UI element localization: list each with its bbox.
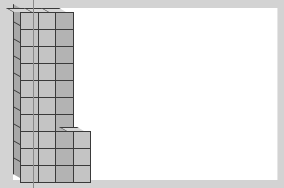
cube — [38, 46, 57, 64]
cube — [20, 114, 39, 132]
cube — [73, 165, 92, 183]
cube — [38, 29, 57, 47]
cube — [38, 80, 57, 98]
cube — [20, 148, 39, 166]
cube — [38, 114, 57, 132]
cube — [55, 29, 74, 47]
cube — [55, 148, 74, 166]
cube — [38, 148, 57, 166]
cube — [73, 131, 92, 149]
cube — [20, 12, 39, 30]
cube-stack — [0, 0, 284, 188]
cube — [20, 97, 39, 115]
cube — [38, 165, 57, 183]
cube — [55, 63, 74, 81]
cube — [38, 131, 57, 149]
cube — [20, 165, 39, 183]
cube — [20, 131, 39, 149]
cube — [55, 131, 74, 149]
cube — [55, 165, 74, 183]
cube — [20, 46, 39, 64]
cube — [55, 97, 74, 115]
cube — [55, 80, 74, 98]
cube — [20, 80, 39, 98]
cube — [38, 63, 57, 81]
cube — [55, 46, 74, 64]
cube — [20, 29, 39, 47]
cube — [73, 148, 92, 166]
guide-line — [33, 0, 34, 188]
cube — [55, 12, 74, 30]
cube — [38, 97, 57, 115]
cube — [38, 12, 57, 30]
cube — [20, 63, 39, 81]
